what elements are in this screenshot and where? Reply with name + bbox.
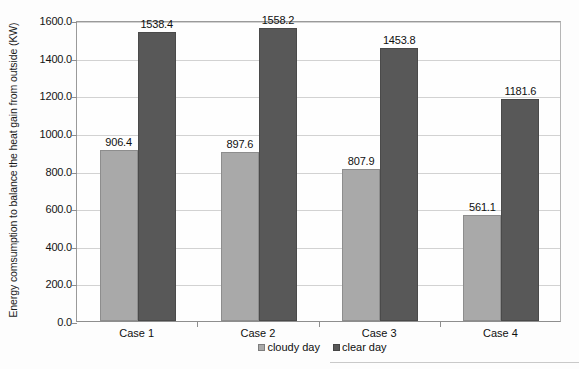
bar-value-label: 807.9 [348,155,375,167]
y-axis-tick-mark [72,323,77,324]
chart-legend: cloudy dayclear day [0,341,579,353]
y-axis-tick-label: 1200.0 [24,90,72,102]
y-axis-tick-mark [72,60,77,61]
y-axis-tick-label: 400.0 [24,241,72,253]
bar-value-label: 1453.8 [383,34,415,46]
x-axis-category-label: Case 3 [362,327,397,339]
legend-swatch-icon [333,344,340,351]
bar-value-label: 1538.4 [140,18,172,30]
legend-item-cloudy-day: cloudy day [258,341,320,353]
y-axis-tick-mark [72,285,77,286]
legend-label: clear day [342,341,387,353]
bar-clear-day [380,48,418,321]
bar-cloudy-day [342,169,380,321]
scan-artifact-line [330,362,579,363]
bar-value-label: 1181.6 [505,85,537,97]
y-axis-tick-label: 1400.0 [24,53,72,65]
bar-clear-day [259,28,297,321]
y-axis-tick-mark [72,210,77,211]
legend-swatch-icon [258,344,265,351]
y-axis-tick-mark [72,97,77,98]
bar-clear-day [138,32,176,321]
x-axis-category-label: Case 1 [119,327,154,339]
bar-value-label: 1558.2 [262,14,294,26]
x-axis-category-label: Case 4 [483,327,518,339]
bar-clear-day [501,99,539,321]
y-axis-tick-mark [72,135,77,136]
y-axis-tick-mark [72,248,77,249]
y-axis-tick-label: 0.0 [24,316,72,328]
y-axis-tick-labels: 1600.01400.01200.01000.0800.0600.0400.02… [20,0,72,369]
y-axis-tick-label: 600.0 [24,203,72,215]
y-axis-tick-mark [72,173,77,174]
y-axis-tick-label: 1600.0 [24,15,72,27]
bar-value-label: 561.1 [469,201,496,213]
y-axis-tick-label: 800.0 [24,166,72,178]
x-axis-category-label: Case 2 [240,327,275,339]
plot-area: 906.41538.4897.61558.2807.91453.8561.111… [76,21,561,322]
bar-value-label: 897.6 [227,138,254,150]
x-axis-tick-mark [197,322,198,327]
x-axis-tick-mark [440,322,441,327]
y-axis-title-text: Energy comsumption to balance the heat g… [7,22,19,317]
y-axis-tick-label: 200.0 [24,278,72,290]
bar-cloudy-day [221,152,259,321]
bar-cloudy-day [463,215,501,321]
y-axis-tick-label: 1000.0 [24,128,72,140]
x-axis-tick-mark [319,322,320,327]
y-axis-tick-mark [72,22,77,23]
legend-label: cloudy day [267,341,320,353]
legend-item-clear-day: clear day [333,341,387,353]
chart-page: Energy comsumption to balance the heat g… [0,0,579,369]
bar-cloudy-day [100,150,138,321]
bar-value-label: 906.4 [105,136,132,148]
